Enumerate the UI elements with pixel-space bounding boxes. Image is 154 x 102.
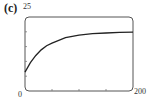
data-curve bbox=[25, 32, 133, 72]
axis-ticks bbox=[25, 32, 106, 91]
chart-plot bbox=[0, 0, 154, 102]
plot-frame bbox=[25, 17, 133, 91]
